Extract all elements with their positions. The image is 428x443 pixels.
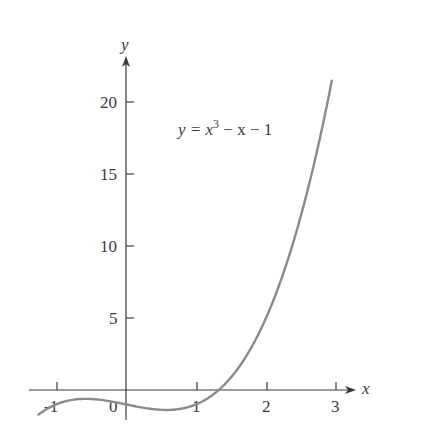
equation-label: y = x3 − x − 1 [176,117,272,139]
equation-suffix: − x − 1 [219,120,272,139]
y-axis: y 5 10 15 20 [100,35,134,420]
y-axis-label: y [119,35,129,54]
x-axis-label: x [361,379,370,398]
equation-prefix: y = x [176,120,214,139]
y-tick-label: 15 [100,165,117,184]
y-tick-label: 5 [109,309,118,328]
function-plot: x -1 0 1 2 3 y 5 10 15 20 y = x3 − x − 1 [0,0,428,443]
x-tick-label: 3 [331,397,340,416]
y-tick-label: 10 [100,237,117,256]
x-tick-label: 0 [109,397,118,416]
x-tick-label: 2 [262,397,271,416]
y-tick-label: 20 [100,93,117,112]
x-axis: x -1 0 1 2 3 [29,379,370,416]
